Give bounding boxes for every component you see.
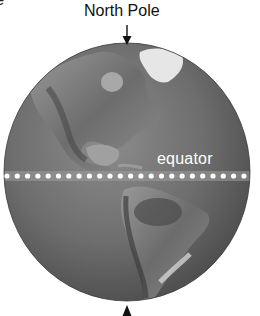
equator-label: equator (157, 150, 213, 168)
earth-diagram: re North Pole (0, 0, 260, 316)
south-arrow-icon (123, 305, 132, 316)
globe-graphic (0, 0, 260, 316)
north-arrow-icon (123, 25, 132, 45)
globe (0, 43, 260, 302)
